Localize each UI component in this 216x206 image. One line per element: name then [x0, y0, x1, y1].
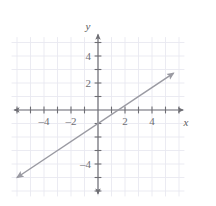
x-tick-label: –4 — [38, 115, 51, 127]
x-tick-label: –2 — [65, 115, 77, 127]
y-tick-label: 2 — [86, 77, 92, 89]
y-axis-label: y — [85, 20, 91, 32]
y-tick-label: –4 — [79, 158, 92, 170]
y-tick-label: 4 — [86, 50, 92, 62]
graph-canvas: –4–22442–4xy — [0, 0, 216, 206]
x-tick-label: 2 — [122, 115, 128, 127]
coordinate-plane-figure: –4–22442–4xy — [0, 0, 216, 206]
x-tick-label: 4 — [149, 115, 155, 127]
x-axis-label: x — [183, 116, 189, 128]
